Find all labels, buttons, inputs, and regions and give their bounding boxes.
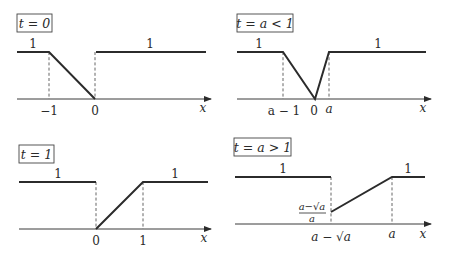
panel-t0: t = 0 1 1 −1 0 x xyxy=(17,14,211,118)
profile-curve-left xyxy=(17,52,95,99)
axis-label: x xyxy=(420,227,427,241)
panel-title: t = a < 1 xyxy=(236,16,293,31)
tick-label: a xyxy=(388,227,395,241)
panel-title: t = 1 xyxy=(21,147,52,162)
tick-label: a − √a xyxy=(311,230,351,244)
level-label-left: 1 xyxy=(279,162,287,176)
level-label-left: 1 xyxy=(29,37,37,51)
axis-label: x xyxy=(420,101,427,115)
level-label-right: 1 xyxy=(404,162,412,176)
tick-label: 1 xyxy=(139,234,147,248)
tick-label: 0 xyxy=(92,234,100,248)
level-label-right: 1 xyxy=(171,167,179,181)
panel-t-a-less-1: t = a < 1 1 1 a − 1 0 a x xyxy=(236,14,431,118)
panel-t1: t = 1 1 1 0 1 x xyxy=(19,145,211,248)
panel-title: t = 0 xyxy=(19,16,50,31)
profile-curve-right xyxy=(331,177,425,212)
panel-t-a-greater-1: t = a > 1 1 1 a−√a a a − √a a x xyxy=(234,138,431,244)
level-label-right: 1 xyxy=(146,37,154,51)
jump-value-numerator: a−√a xyxy=(299,201,326,212)
profile-curve xyxy=(237,52,426,99)
tick-label: 0 xyxy=(91,104,99,118)
tick-label: a − 1 xyxy=(268,104,300,118)
jump-value-denominator: a xyxy=(309,213,315,224)
tick-label: a xyxy=(325,102,332,116)
profile-curve-right xyxy=(96,182,208,229)
axis-label: x xyxy=(201,231,208,245)
tick-label: 0 xyxy=(310,104,318,118)
tick-label: −1 xyxy=(40,104,58,118)
level-label-left: 1 xyxy=(54,167,62,181)
level-label-right: 1 xyxy=(374,37,382,51)
diagram-canvas: t = 0 1 1 −1 0 x t = a < 1 1 1 a − 1 0 a… xyxy=(0,0,449,258)
level-label-left: 1 xyxy=(255,37,263,51)
panel-title: t = a > 1 xyxy=(234,140,291,155)
axis-label: x xyxy=(200,101,207,115)
